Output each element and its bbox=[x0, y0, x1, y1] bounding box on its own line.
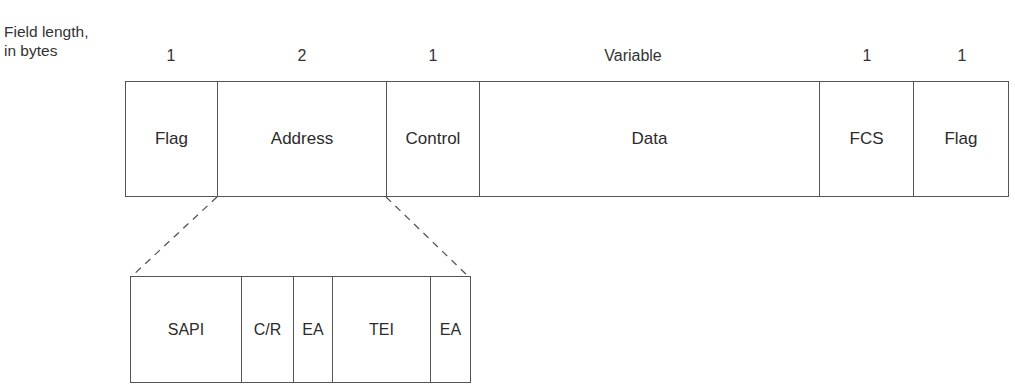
expansion-line-left bbox=[131, 197, 217, 277]
subfield-cr: C/R bbox=[242, 277, 294, 382]
subfield-ea-1: EA bbox=[294, 277, 333, 382]
subfield-sapi: SAPI bbox=[131, 277, 242, 382]
subfield-tei: TEI bbox=[333, 277, 431, 382]
address-field-expansion: SAPI C/R EA TEI EA bbox=[130, 276, 471, 383]
subfield-ea-2: EA bbox=[431, 277, 470, 382]
expansion-line-right bbox=[386, 197, 469, 277]
